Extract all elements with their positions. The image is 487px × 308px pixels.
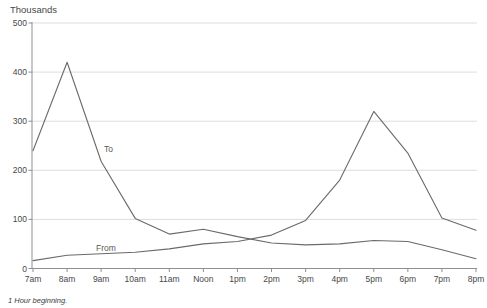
line-chart-canvas: 0100200300400500 7am8am9am10am11amNoon1p… [0, 0, 487, 308]
x-tick-label: Noon [193, 274, 214, 284]
x-tick-label: 2pm [263, 274, 280, 284]
y-tick-labels-layer: 0100200300400500 [13, 18, 27, 274]
y-tick-label: 400 [13, 67, 27, 77]
gridlines-layer [32, 23, 477, 219]
series-label-to: To [104, 144, 113, 154]
x-tick-labels-layer: 7am8am9am10am11amNoon1pm2pm3pm4pm5pm6pm7… [25, 274, 485, 284]
data-series-layer [33, 62, 476, 260]
x-tick-label: 11am [159, 274, 180, 284]
y-axis-units-label: Thousands [10, 4, 57, 15]
journey-time-of-day-chart: 0100200300400500 7am8am9am10am11amNoon1p… [0, 0, 487, 308]
y-tick-label: 100 [13, 214, 27, 224]
y-tick-label: 500 [13, 18, 27, 28]
x-tick-label: 8am [59, 274, 76, 284]
x-tick-label: 7am [25, 274, 42, 284]
x-tick-label: 1pm [229, 274, 246, 284]
y-tick-label: 0 [22, 264, 27, 274]
series-line-to [33, 62, 476, 258]
x-tick-label: 9am [93, 274, 110, 284]
series-line-from [33, 111, 476, 260]
x-tick-label: 4pm [331, 274, 348, 284]
series-label-from: From [96, 243, 116, 253]
x-tick-label: 8pm [468, 274, 485, 284]
y-tick-label: 200 [13, 165, 27, 175]
y-tick-label: 300 [13, 116, 27, 126]
x-tick-label: 6pm [400, 274, 417, 284]
x-tick-label: 7pm [434, 274, 451, 284]
footnote: 1 Hour beginning. [8, 296, 67, 305]
x-tick-label: 10am [125, 274, 146, 284]
x-tick-label: 5pm [365, 274, 382, 284]
x-tick-label: 3pm [297, 274, 314, 284]
